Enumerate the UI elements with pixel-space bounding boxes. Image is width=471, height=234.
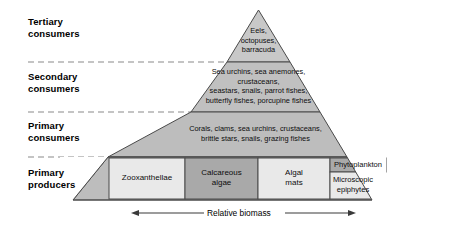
tier-tertiary-line-3: barracuda	[208, 45, 309, 55]
biomass-arrowhead-left	[131, 210, 139, 216]
cell-label-algal-mats: Algal mats	[258, 168, 330, 188]
tier-secondary-line-4: butterfly fishes, porcupine fishes	[168, 96, 349, 106]
level-label-primary-consumers: Primary consumers	[28, 120, 80, 144]
tier-tertiary-line-1: Eels,	[208, 26, 309, 36]
cell-algal-mats-line-2: mats	[258, 178, 330, 188]
level-label-tertiary-consumers: Tertiary consumers	[28, 16, 80, 40]
level-label-secondary-line1: Secondary	[28, 71, 80, 83]
cell-microscopic-epiphytes-line-1: Microscopic	[330, 175, 376, 185]
cell-label-phytoplankton: Phytoplankton	[330, 160, 386, 170]
cell-label-zooxanthellae: Zooxanthellae	[109, 173, 185, 183]
level-label-primary-producers-line2: producers	[28, 179, 75, 191]
tier-secondary-line-3: seastars, snails, parrot fishes,	[168, 86, 349, 96]
cell-phytoplankton-line-1: Phytoplankton	[330, 160, 386, 170]
cell-microscopic-epiphytes-line-2: epiphytes	[330, 185, 376, 195]
cell-calcareous-algae-line-2: algae	[185, 178, 258, 188]
level-label-secondary-line2: consumers	[28, 83, 80, 95]
tier-secondary-line-1: Sea urchins, sea anemones,	[168, 67, 349, 77]
cell-label-calcareous-algae: Calcareous algae	[185, 168, 258, 188]
level-label-primary-consumers-line2: consumers	[28, 132, 80, 144]
tier-primary-consumers-line-1: Corals, clams, sea urchins, crustaceans,	[155, 124, 356, 134]
trophic-pyramid-diagram: Tertiary consumers Secondary consumers P…	[0, 0, 471, 234]
level-label-primary-producers-line1: Primary	[28, 167, 75, 179]
level-label-secondary-consumers: Secondary consumers	[28, 71, 80, 95]
level-label-primary-consumers-line1: Primary	[28, 120, 80, 132]
level-label-tertiary-line1: Tertiary	[28, 16, 80, 28]
tier-primary-consumers-line-2: brittle stars, snails, grazing fishes	[155, 134, 356, 144]
cell-zooxanthellae-line-1: Zooxanthellae	[109, 173, 185, 183]
tier-text-secondary: Sea urchins, sea anemones, crustaceans, …	[168, 67, 349, 105]
tier-tertiary-line-2: octopuses,	[208, 36, 309, 46]
level-label-primary-producers: Primary producers	[28, 167, 75, 191]
cell-label-microscopic-epiphytes: Microscopic epiphytes	[330, 175, 376, 194]
biomass-axis-label: Relative biomass	[207, 208, 271, 218]
level-label-tertiary-line2: consumers	[28, 28, 80, 40]
biomass-arrowhead-right	[348, 210, 356, 216]
tier-text-tertiary: Eels, octopuses, barracuda	[208, 26, 309, 55]
tier-text-primary-consumers: Corals, clams, sea urchins, crustaceans,…	[155, 124, 356, 143]
cell-algal-mats-line-1: Algal	[258, 168, 330, 178]
tier-secondary-line-2: crustaceans,	[168, 77, 349, 87]
cell-calcareous-algae-line-1: Calcareous	[185, 168, 258, 178]
